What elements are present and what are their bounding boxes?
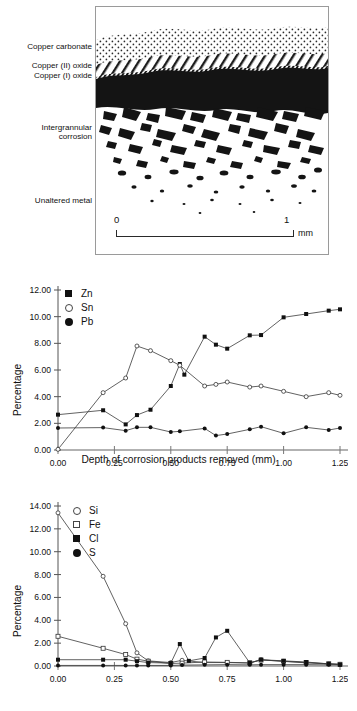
- scale-bar-line: [116, 230, 294, 237]
- x-tick-label: 0.25: [106, 674, 123, 684]
- filled-square-icon: [62, 290, 75, 297]
- y-tick-label: 12.00: [29, 524, 51, 534]
- nonmetals-y-axis-label: Percentage: [12, 585, 23, 637]
- y-tick-label: 10.00: [29, 547, 51, 557]
- series-Pb: [56, 425, 342, 438]
- scale-bar-group: 0 1 mm: [114, 214, 310, 244]
- layer-label-group: Copper carbonate Copper (II) oxide Coppe…: [0, 0, 92, 255]
- legend-item-fe: Fe: [70, 518, 101, 531]
- metals-y-axis-label: Percentage: [12, 364, 23, 416]
- x-tick-label: 1.00: [275, 674, 292, 684]
- open-circle-icon: [62, 304, 75, 312]
- corrosion-cross-section-figure: Copper carbonate Copper (II) oxide Coppe…: [0, 0, 357, 268]
- x-tick-label: 1.25: [332, 674, 348, 684]
- legend-label-si: Si: [89, 504, 98, 517]
- filled-square-icon: [70, 535, 83, 542]
- y-tick-label: 6.00: [34, 592, 51, 602]
- legend-item-pb: Pb: [62, 315, 93, 328]
- legend-item-zn: Zn: [62, 287, 93, 300]
- cross-section-panel: 0 1 mm: [95, 6, 329, 255]
- filled-circle-icon: [70, 549, 83, 557]
- y-tick-label: 8.00: [34, 338, 51, 348]
- filled-circle-icon: [62, 318, 75, 326]
- label-unaltered-metal: Unaltered metal: [35, 196, 92, 206]
- x-tick-label: 0.00: [50, 674, 67, 684]
- series-Cl: [56, 629, 342, 667]
- nonmetals-chart: Percentage 0.002.004.006.008.0010.0012.0…: [0, 492, 357, 711]
- y-tick-label: 12.00: [29, 285, 51, 295]
- legend-item-sn: Sn: [62, 301, 93, 314]
- y-tick-label: 6.00: [34, 365, 51, 375]
- y-tick-label: 8.00: [34, 570, 51, 580]
- series-Zn: [56, 307, 342, 426]
- legend-label-fe: Fe: [89, 518, 101, 531]
- y-tick-label: 14.00: [29, 501, 51, 511]
- y-tick-label: 2.00: [34, 418, 51, 428]
- label-copper-i-oxide: Copper (I) oxide: [34, 71, 92, 81]
- legend-label-sn: Sn: [81, 301, 93, 314]
- series-Sn: [56, 344, 342, 451]
- label-copper-carbonate: Copper carbonate: [27, 42, 92, 52]
- legend-label-zn: Zn: [81, 287, 93, 300]
- scale-unit-label: mm: [298, 228, 313, 238]
- y-tick-label: 2.00: [34, 638, 51, 648]
- x-tick-label: 0.75: [219, 674, 236, 684]
- legend-item-cl: Cl: [70, 532, 101, 545]
- y-tick-label: 4.00: [34, 392, 51, 402]
- y-tick-label: 4.00: [34, 615, 51, 625]
- scale-start-label: 0: [114, 214, 119, 225]
- scale-end-label: 1: [284, 214, 289, 225]
- legend-label-s: S: [89, 546, 96, 559]
- label-intergrannular-corrosion: Intergrannular corrosion: [2, 123, 92, 142]
- series-S: [56, 663, 342, 668]
- legend-item-si: Si: [70, 504, 101, 517]
- metals-chart: Percentage 0.002.004.006.008.0010.0012.0…: [0, 276, 357, 482]
- metals-legend: Zn Sn Pb: [62, 287, 93, 329]
- y-tick-label: 10.00: [29, 312, 51, 322]
- metals-x-axis-label: Depth of corrosion products removed (mm): [0, 454, 357, 465]
- label-copper-ii-oxide: Copper (II) oxide: [32, 61, 92, 71]
- y-tick-label: 0.00: [34, 661, 51, 671]
- nonmetals-legend: Si Fe Cl S: [70, 504, 101, 560]
- open-square-icon: [70, 521, 83, 528]
- legend-item-s: S: [70, 546, 101, 559]
- legend-label-cl: Cl: [89, 532, 98, 545]
- legend-label-pb: Pb: [81, 315, 93, 328]
- x-tick-label: 0.50: [162, 674, 179, 684]
- open-circle-icon: [70, 507, 83, 515]
